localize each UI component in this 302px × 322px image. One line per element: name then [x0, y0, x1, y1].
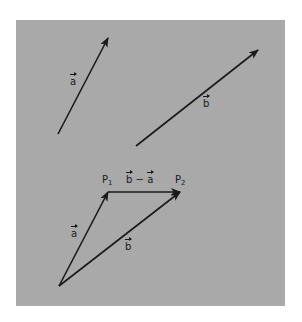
vector-a-arrow — [58, 38, 108, 134]
point-p1-label: P1 — [102, 175, 113, 187]
triangle-vector-a-arrow — [59, 192, 108, 286]
vector-a-symbol: a — [70, 74, 76, 87]
difference-operator: − — [136, 174, 144, 185]
difference-right-symbol: a — [147, 172, 153, 185]
triangle-vector-b-arrow — [59, 192, 180, 286]
triangle-vector-a-label: a — [71, 226, 77, 239]
vector-diagram — [0, 0, 302, 322]
vector-b-label: b — [203, 96, 209, 109]
triangle-vector-a-symbol: a — [71, 226, 77, 239]
difference-left-symbol: b — [126, 172, 132, 185]
triangle-vector-b-symbol: b — [125, 239, 131, 252]
vector-b-symbol: b — [203, 96, 209, 109]
triangle-vector-b-label: b — [125, 239, 131, 252]
vector-a-label: a — [70, 74, 76, 87]
point-p1-subscript: 1 — [108, 179, 112, 187]
difference-label: b − a — [126, 172, 153, 185]
point-p2-subscript: 2 — [181, 179, 185, 187]
vector-b-arrow — [136, 50, 258, 146]
point-p2-label: P2 — [175, 175, 186, 187]
